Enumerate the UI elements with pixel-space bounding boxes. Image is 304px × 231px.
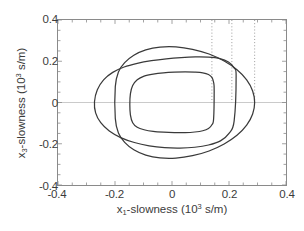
- y-axis-var: x: [15, 152, 27, 158]
- y-tick-label-1: -0.2: [39, 138, 58, 150]
- x-axis-superscript: 3: [198, 202, 202, 211]
- y-tick-label-0: -0.4: [39, 180, 58, 192]
- x-axis-tail: s/m): [202, 203, 228, 215]
- y-axis-tail: s/m): [15, 47, 27, 73]
- plot-area: [57, 19, 287, 186]
- x-axis-text: -slowness (10: [127, 203, 198, 215]
- guide-lines: [212, 20, 255, 103]
- plot-canvas: [58, 20, 286, 185]
- y-axis-title: x3-slowness (103 s/m): [13, 19, 29, 186]
- y-axis-superscript: 3: [14, 73, 23, 77]
- x-tick-label-4: 0.4: [279, 188, 294, 200]
- y-tick-label-3: 0.2: [43, 55, 58, 67]
- y-tick-label-2: 0: [52, 97, 58, 109]
- y-axis-subscript: 3: [20, 148, 29, 152]
- slowness-chart-figure: -0.4-0.200.20.4 -0.4-0.200.20.4 x1-slown…: [0, 0, 304, 231]
- x-tick-label-3: 0.2: [222, 188, 237, 200]
- x-tick-label-1: -0.2: [105, 188, 124, 200]
- x-axis-title: x1-slowness (103 s/m): [57, 203, 287, 215]
- y-axis-text: -slowness (10: [15, 77, 27, 148]
- x-axis-subscript: 1: [122, 208, 126, 217]
- y-tick-label-4: 0.4: [43, 13, 58, 25]
- x-tick-label-2: 0: [169, 188, 175, 200]
